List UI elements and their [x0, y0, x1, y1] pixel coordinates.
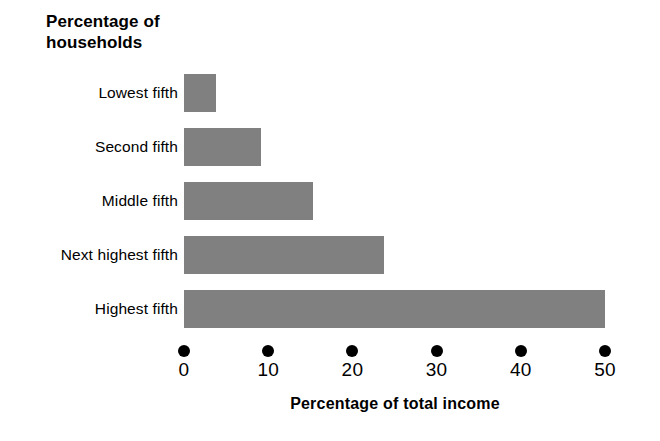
- bar-chart: Percentage of households Lowest fifthSec…: [0, 0, 660, 441]
- category-label: Second fifth: [95, 139, 178, 155]
- tick-dot-icon: [431, 345, 443, 357]
- x-axis-title: Percentage of total income: [184, 396, 606, 412]
- x-axis-tick-label: 30: [407, 360, 467, 379]
- bar-row: Highest fifth: [0, 290, 660, 328]
- bar: [184, 290, 605, 328]
- tick-dot-icon: [346, 345, 358, 357]
- bar-row: Middle fifth: [0, 182, 660, 220]
- x-axis-tick-label: 10: [238, 360, 298, 379]
- tick-dot-icon: [178, 345, 190, 357]
- category-label: Lowest fifth: [98, 85, 178, 101]
- x-axis: 01020304050: [0, 342, 660, 386]
- bar: [184, 128, 261, 166]
- bar-row: Second fifth: [0, 128, 660, 166]
- tick-dot-icon: [599, 345, 611, 357]
- tick-dot-icon: [515, 345, 527, 357]
- x-axis-tick-label: 0: [154, 360, 214, 379]
- x-axis-tick-label: 50: [575, 360, 635, 379]
- bar-row: Next highest fifth: [0, 236, 660, 274]
- bar: [184, 74, 216, 112]
- chart-title: Percentage of households: [46, 12, 346, 53]
- x-axis-tick-label: 40: [491, 360, 551, 379]
- bar-row: Lowest fifth: [0, 74, 660, 112]
- plot-area: Lowest fifthSecond fifthMiddle fifthNext…: [0, 74, 660, 342]
- category-label: Highest fifth: [95, 301, 178, 317]
- category-label: Middle fifth: [102, 193, 178, 209]
- bar: [184, 236, 384, 274]
- tick-dot-icon: [262, 345, 274, 357]
- category-label: Next highest fifth: [61, 247, 178, 263]
- x-axis-tick-label: 20: [322, 360, 382, 379]
- bar: [184, 182, 313, 220]
